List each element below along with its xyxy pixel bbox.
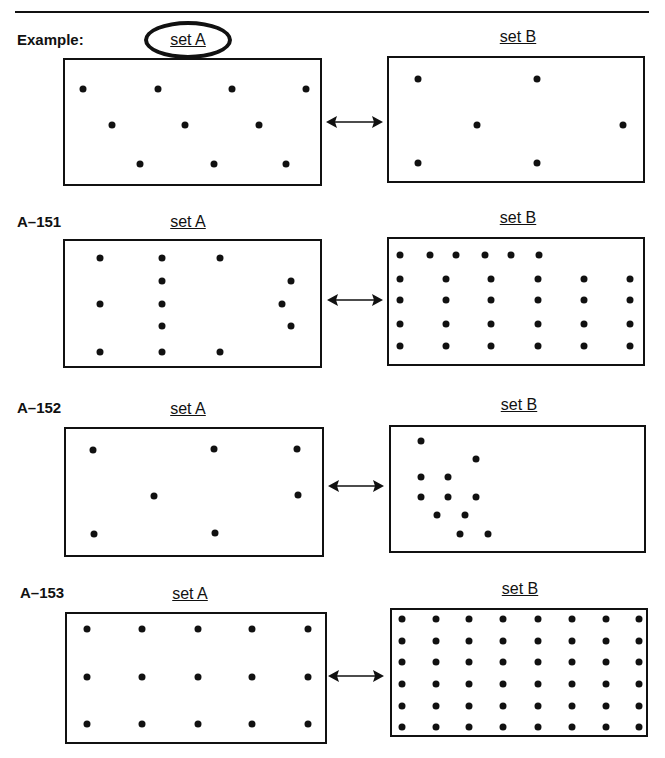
- dot: [427, 252, 434, 259]
- dot: [303, 86, 310, 93]
- dot: [159, 349, 166, 356]
- dot: [636, 659, 643, 666]
- dot: [434, 512, 441, 519]
- dot: [418, 438, 425, 445]
- set-b-label[interactable]: set B: [502, 580, 538, 598]
- double-arrow-icon: [328, 669, 384, 683]
- set-b-label[interactable]: set B: [500, 28, 536, 46]
- dot: [627, 343, 634, 350]
- dot: [249, 626, 256, 633]
- dot: [462, 512, 469, 519]
- dot: [97, 349, 104, 356]
- dot: [97, 255, 104, 262]
- dot: [535, 638, 542, 645]
- dot: [305, 626, 312, 633]
- dot: [399, 616, 406, 623]
- dot: [603, 681, 610, 688]
- dot: [256, 122, 263, 129]
- dot: [443, 297, 450, 304]
- dot: [288, 323, 295, 330]
- dot: [485, 531, 492, 538]
- dot: [569, 659, 576, 666]
- set-b-box[interactable]: [390, 608, 648, 737]
- dot: [399, 659, 406, 666]
- dot: [500, 659, 507, 666]
- dot: [399, 703, 406, 710]
- dot: [399, 638, 406, 645]
- dot: [473, 494, 480, 501]
- dot: [159, 301, 166, 308]
- set-a-label[interactable]: set A: [170, 213, 206, 231]
- set-b-label[interactable]: set B: [501, 396, 537, 414]
- dot: [305, 674, 312, 681]
- dot: [581, 343, 588, 350]
- dot: [627, 297, 634, 304]
- top-rule: [15, 11, 649, 13]
- dot: [84, 674, 91, 681]
- dot: [603, 659, 610, 666]
- dot: [397, 321, 404, 328]
- dot: [569, 681, 576, 688]
- dot: [453, 252, 460, 259]
- set-a-label[interactable]: set A: [170, 400, 206, 418]
- dot: [535, 703, 542, 710]
- dot: [500, 681, 507, 688]
- double-arrow-icon: [327, 293, 383, 307]
- dot: [415, 76, 422, 83]
- dot: [283, 161, 290, 168]
- dot: [84, 721, 91, 728]
- dot: [603, 724, 610, 731]
- dot: [581, 276, 588, 283]
- dot: [535, 343, 542, 350]
- dot: [603, 638, 610, 645]
- set-b-box[interactable]: [387, 237, 645, 366]
- dot: [534, 76, 541, 83]
- problem-label: A–153: [20, 584, 64, 602]
- set-a-label[interactable]: set A: [170, 31, 206, 49]
- dot: [445, 474, 452, 481]
- dot: [288, 278, 295, 285]
- dot: [500, 616, 507, 623]
- dot: [249, 721, 256, 728]
- dot: [211, 446, 218, 453]
- set-a-box[interactable]: [64, 427, 324, 557]
- dot: [139, 721, 146, 728]
- dot: [295, 492, 302, 499]
- dot: [500, 724, 507, 731]
- dot: [535, 276, 542, 283]
- dot: [627, 321, 634, 328]
- dot: [249, 674, 256, 681]
- dot: [433, 638, 440, 645]
- set-b-label[interactable]: set B: [500, 209, 536, 227]
- dot: [279, 301, 286, 308]
- dot: [466, 616, 473, 623]
- double-arrow-icon: [326, 115, 383, 129]
- dot: [466, 659, 473, 666]
- dot: [433, 616, 440, 623]
- set-b-box[interactable]: [389, 425, 646, 553]
- dot: [195, 674, 202, 681]
- dot: [159, 278, 166, 285]
- set-a-label[interactable]: set A: [172, 585, 208, 603]
- dot: [418, 494, 425, 501]
- problem-label: Example:: [17, 31, 84, 49]
- dot: [636, 724, 643, 731]
- dot: [433, 703, 440, 710]
- dot: [488, 276, 495, 283]
- dot: [581, 321, 588, 328]
- dot: [84, 626, 91, 633]
- dot: [445, 494, 452, 501]
- dot: [399, 724, 406, 731]
- dot: [195, 721, 202, 728]
- dot: [91, 531, 98, 538]
- set-b-box[interactable]: [387, 56, 645, 183]
- dot: [536, 252, 543, 259]
- dot: [466, 703, 473, 710]
- dot: [397, 276, 404, 283]
- dot: [433, 659, 440, 666]
- dot: [217, 349, 224, 356]
- dot: [217, 255, 224, 262]
- dot: [535, 616, 542, 623]
- dot: [433, 724, 440, 731]
- dot: [603, 616, 610, 623]
